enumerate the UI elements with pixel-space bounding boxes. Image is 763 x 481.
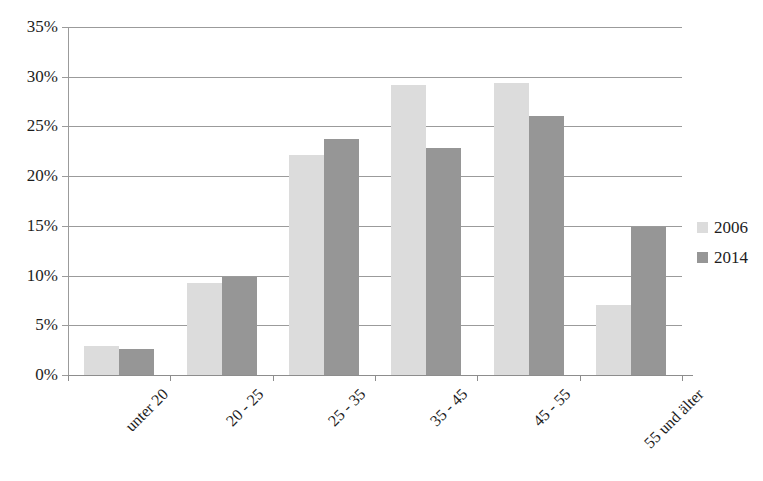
x-axis-tick [477, 375, 478, 381]
bar-2006-20---25 [187, 283, 222, 375]
bar-2006-unter-20 [84, 346, 119, 375]
y-axis-tick-label: 25% [27, 117, 58, 134]
legend: 20062014 [697, 212, 748, 272]
bar-chart: 0%5%10%15%20%25%30%35% unter 2020 - 2525… [0, 0, 763, 481]
gridline [68, 176, 682, 177]
y-axis-tick-label: 30% [27, 68, 58, 85]
x-axis-label-45---55: 45 - 55 [530, 386, 573, 429]
gridline [68, 226, 682, 227]
y-axis-tick-label: 35% [27, 18, 58, 35]
bar-2006-35---45 [391, 85, 426, 375]
x-axis-tick [580, 375, 581, 381]
bar-2006-25---35 [289, 155, 324, 375]
x-axis-label-20---25: 20 - 25 [223, 386, 266, 429]
legend-item-2006[interactable]: 2006 [697, 212, 748, 242]
bar-2014-unter-20 [119, 349, 154, 375]
x-axis-label-25---35: 25 - 35 [325, 386, 368, 429]
legend-swatch-icon [697, 252, 708, 263]
bar-2006-45---55 [494, 83, 529, 375]
bar-2014-20---25 [222, 277, 257, 375]
x-axis-tick [170, 375, 171, 381]
legend-swatch-icon [697, 222, 708, 233]
y-axis-tick-label: 0% [35, 366, 58, 383]
bar-2014-55-und-älter [631, 227, 666, 375]
bar-group [596, 27, 666, 375]
x-axis-label-unter-20: unter 20 [123, 386, 172, 435]
y-axis-tick-label: 10% [27, 267, 58, 284]
x-axis-line [68, 375, 693, 376]
bar-group [187, 27, 257, 375]
bar-group [84, 27, 154, 375]
bar-2014-35---45 [426, 148, 461, 375]
y-axis-tick-label: 5% [35, 316, 58, 333]
bar-2014-45---55 [529, 116, 564, 376]
x-axis-tick [68, 375, 69, 381]
x-axis-label-35---45: 35 - 45 [427, 386, 470, 429]
x-axis-label-55-und-älter: 55 und älter [641, 386, 706, 451]
legend-item-2014[interactable]: 2014 [697, 242, 748, 272]
bar-group [494, 27, 564, 375]
gridline [68, 276, 682, 277]
gridline [68, 126, 682, 127]
plot-area [68, 27, 682, 375]
bar-group [289, 27, 359, 375]
gridline [68, 77, 682, 78]
y-axis-tick-label: 15% [27, 217, 58, 234]
gridline [68, 325, 682, 326]
bar-2006-55-und-älter [596, 305, 631, 375]
gridline [68, 27, 682, 28]
x-axis-tick [682, 375, 683, 381]
bar-group [391, 27, 461, 375]
bar-2014-25---35 [324, 139, 359, 375]
x-axis-tick [375, 375, 376, 381]
y-axis-tick-label: 20% [27, 167, 58, 184]
x-axis-tick [273, 375, 274, 381]
legend-label: 2006 [714, 219, 748, 236]
legend-label: 2014 [714, 249, 748, 266]
